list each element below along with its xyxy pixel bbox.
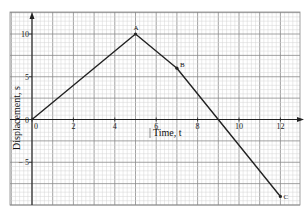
displacement-time-chart: 0246810121050− 5 ABC Time, t Displacemen… xyxy=(0,0,308,211)
point-marker-b xyxy=(175,67,178,70)
grid-background xyxy=(10,12,300,205)
x-axis-arrow-icon xyxy=(297,117,304,122)
x-tick-label: 2 xyxy=(71,122,75,131)
point-label-c: C xyxy=(283,193,288,201)
point-label-a: A xyxy=(134,24,139,32)
point-marker-c xyxy=(279,195,282,198)
point-marker-a xyxy=(134,32,137,35)
x-tick-label: 8 xyxy=(196,122,200,131)
point-label-b: B xyxy=(180,61,185,69)
y-tick-label: 5 xyxy=(25,73,29,82)
graph-paper-grid xyxy=(10,12,300,205)
x-tick-label: 4 xyxy=(113,122,117,131)
y-tick-label: 0 xyxy=(25,116,29,125)
y-tick-label: 10 xyxy=(21,30,29,39)
x-tick-label: 10 xyxy=(235,122,243,131)
x-tick-label: 0 xyxy=(34,122,38,131)
x-axis-label: Time, t xyxy=(153,127,182,138)
y-axis-label: Displacement, s xyxy=(11,86,22,150)
y-tick-label: − 5 xyxy=(18,158,29,167)
x-tick-label: 12 xyxy=(276,122,284,131)
